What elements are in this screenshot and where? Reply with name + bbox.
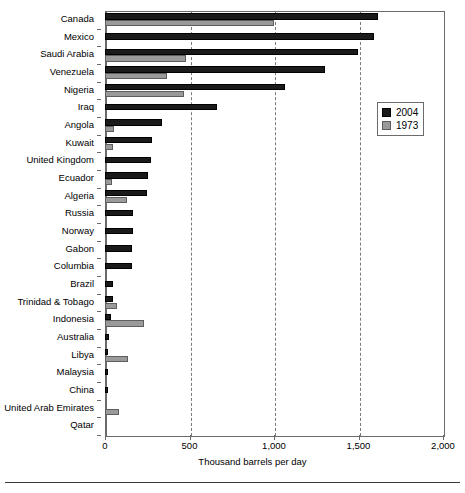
- bar-group: [105, 46, 443, 64]
- category-tick: [97, 258, 101, 259]
- category-tick: [97, 382, 101, 383]
- bar-group: [105, 382, 443, 400]
- bar-2004: [105, 119, 162, 125]
- bar-2004: [105, 296, 113, 302]
- bar-group: [105, 29, 443, 47]
- bar-group: [105, 188, 443, 206]
- bar-1973: [105, 179, 112, 185]
- x-tick-label: 0: [80, 440, 130, 451]
- category-label: Columbia: [54, 261, 94, 271]
- x-tick-label: 1,000: [249, 440, 299, 451]
- category-label: Libya: [71, 350, 94, 360]
- legend-item-2004: 2004: [382, 106, 418, 119]
- category-tick: [97, 170, 101, 171]
- category-tick: [97, 99, 101, 100]
- category-label: Saudi Arabia: [40, 49, 94, 59]
- category-label: Mexico: [64, 32, 94, 42]
- category-tick: [97, 152, 101, 153]
- x-axis-title: Thousand barrels per day: [0, 456, 465, 467]
- bar-group: [105, 152, 443, 170]
- bars-container: [105, 11, 443, 435]
- bar-1973: [105, 320, 144, 326]
- category-label: Norway: [62, 226, 94, 236]
- legend-label-2004: 2004: [396, 107, 418, 118]
- bar-2004: [105, 190, 147, 196]
- category-label: China: [69, 385, 94, 395]
- gray-swatch-icon: [382, 121, 391, 130]
- bar-2004: [105, 210, 133, 216]
- bar-group: [105, 276, 443, 294]
- category-label: Canada: [61, 14, 94, 24]
- bar-1973: [105, 144, 113, 150]
- bar-2004: [105, 104, 217, 110]
- bar-1973: [105, 409, 119, 415]
- category-tick: [97, 64, 101, 65]
- bar-group: [105, 241, 443, 259]
- bar-2004: [105, 49, 358, 55]
- bar-2004: [105, 66, 325, 72]
- bar-2004: [105, 33, 374, 39]
- category-label: Ecuador: [59, 173, 94, 183]
- bar-2004: [105, 13, 378, 19]
- x-axis-title-text: Thousand barrels per day: [158, 456, 306, 467]
- category-tick: [97, 117, 101, 118]
- bar-2004: [105, 281, 113, 287]
- category-label: Algeria: [64, 191, 94, 201]
- category-tick: [97, 347, 101, 348]
- category-tick: [97, 329, 101, 330]
- legend: 2004 1973: [377, 102, 424, 136]
- bar-2004: [105, 84, 285, 90]
- bar-group: [105, 205, 443, 223]
- bar-1973: [105, 91, 184, 97]
- bar-1973: [105, 73, 167, 79]
- bar-group: [105, 400, 443, 418]
- bar-2004: [105, 245, 132, 251]
- category-label: Trinidad & Tobago: [17, 297, 94, 307]
- category-axis: CanadaMexicoSaudi ArabiaVenezuelaNigeria…: [0, 11, 101, 435]
- bar-2004: [105, 263, 132, 269]
- category-label: Angola: [64, 120, 94, 130]
- category-tick: [97, 400, 101, 401]
- category-tick: [97, 82, 101, 83]
- bar-2004: [105, 369, 108, 375]
- bar-2004: [105, 387, 108, 393]
- category-label: Indonesia: [53, 314, 94, 324]
- bar-group: [105, 135, 443, 153]
- category-label: United Kingdom: [26, 155, 94, 165]
- bar-1973: [105, 356, 128, 362]
- value-axis: 05001,0001,5002,000: [0, 435, 465, 449]
- category-tick: [97, 364, 101, 365]
- category-label: Russia: [65, 208, 94, 218]
- bar-group: [105, 364, 443, 382]
- bar-chart: CanadaMexicoSaudi ArabiaVenezuelaNigeria…: [0, 0, 465, 493]
- bar-group: [105, 329, 443, 347]
- category-tick: [97, 294, 101, 295]
- category-label: Gabon: [65, 244, 94, 254]
- category-tick: [97, 205, 101, 206]
- x-tick-label: 1,500: [334, 440, 384, 451]
- bar-2004: [105, 314, 111, 320]
- x-tick-label: 2,000: [418, 440, 465, 451]
- category-label: Qatar: [70, 420, 94, 430]
- bar-group: [105, 258, 443, 276]
- category-label: Australia: [57, 332, 94, 342]
- bar-group: [105, 347, 443, 365]
- bar-2004: [105, 172, 148, 178]
- black-swatch-icon: [382, 108, 391, 117]
- x-tick-label: 500: [165, 440, 215, 451]
- bar-group: [105, 223, 443, 241]
- category-tick: [97, 276, 101, 277]
- category-label: Malaysia: [57, 367, 95, 377]
- category-tick: [97, 29, 101, 30]
- category-label: United Arab Emirates: [4, 403, 94, 413]
- category-tick: [97, 135, 101, 136]
- category-label: Nigeria: [64, 85, 94, 95]
- bar-2004: [105, 334, 109, 340]
- category-tick: [97, 241, 101, 242]
- bar-1973: [105, 126, 114, 132]
- category-tick: [97, 188, 101, 189]
- category-label: Iraq: [78, 102, 94, 112]
- bar-1973: [105, 55, 186, 61]
- category-label: Kuwait: [65, 138, 94, 148]
- category-label: Brazil: [70, 279, 94, 289]
